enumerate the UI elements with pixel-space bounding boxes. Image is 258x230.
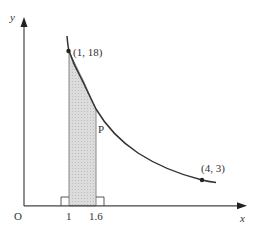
point-label-p: P xyxy=(98,123,104,135)
tick-label-1: 1 xyxy=(66,210,72,222)
shaded-region xyxy=(69,51,96,206)
point-label-1-18: (1, 18) xyxy=(73,46,103,59)
point-4-3 xyxy=(200,178,204,182)
point-1-18 xyxy=(66,49,70,53)
tick-label-1-6: 1.6 xyxy=(89,210,103,222)
x-axis-label: x xyxy=(239,212,245,224)
graph-diagram: y x O 1 1.6 (1, 18) (4, 3) P xyxy=(0,0,258,230)
point-label-4-3: (4, 3) xyxy=(201,162,225,175)
x-axis-arrow-icon xyxy=(237,202,247,209)
y-axis-arrow-icon xyxy=(21,17,28,27)
y-axis-label: y xyxy=(9,11,15,23)
origin-label: O xyxy=(14,210,22,222)
right-angle-marker-left xyxy=(61,197,69,206)
right-angle-marker-right xyxy=(96,197,104,206)
